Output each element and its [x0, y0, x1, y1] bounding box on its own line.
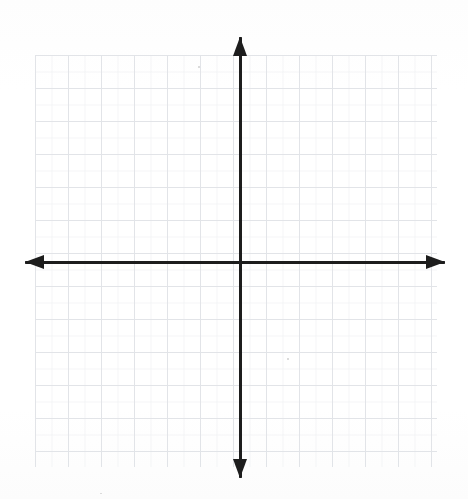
coordinate-plane-worksheet: [0, 0, 468, 499]
x-axis-positive-arrow-icon: [426, 255, 445, 269]
scan-speck: [287, 358, 289, 360]
y-axis-positive-arrow-icon: [233, 37, 247, 56]
y-axis-line: [239, 37, 242, 478]
x-axis-line: [25, 261, 445, 264]
y-axis-negative-arrow-icon: [233, 459, 247, 478]
scan-speck: [198, 66, 200, 68]
scan-speck: [100, 493, 102, 494]
x-axis-negative-arrow-icon: [25, 255, 44, 269]
